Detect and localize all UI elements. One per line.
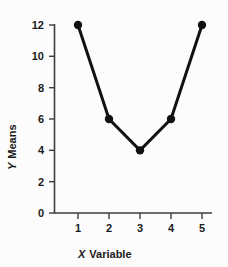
y-tick-label-10: 10 (32, 50, 44, 62)
data-line (78, 25, 202, 150)
x-tick-label-2: 2 (106, 222, 112, 234)
y-tick-label-2: 2 (38, 176, 44, 188)
data-markers (74, 21, 206, 155)
y-axis-title-text: Means (6, 124, 18, 158)
y-axis-title: YMeans (6, 124, 18, 170)
x-axis-title-text: Variable (89, 248, 131, 260)
data-point (105, 115, 113, 123)
chart-figure: 0 2 4 6 8 10 12 1 2 3 4 5 XVariable YMea… (0, 0, 228, 267)
y-tick-label-0: 0 (38, 207, 44, 219)
x-tick-label-1: 1 (75, 222, 81, 234)
x-axis-title-symbol: X (77, 248, 86, 260)
y-tick-label-12: 12 (32, 19, 44, 31)
data-point (167, 115, 175, 123)
data-point (136, 146, 144, 154)
line-chart: 0 2 4 6 8 10 12 1 2 3 4 5 XVariable YMea… (0, 0, 228, 267)
x-tick-label-5: 5 (199, 222, 205, 234)
y-axis-title-symbol: Y (6, 161, 18, 170)
x-axis-title: XVariable (77, 248, 132, 260)
x-tick-label-3: 3 (137, 222, 143, 234)
y-tick-label-6: 6 (38, 113, 44, 125)
y-tick-label-4: 4 (38, 144, 45, 156)
x-tick-label-4: 4 (168, 222, 175, 234)
y-tick-label-8: 8 (38, 82, 44, 94)
data-point (198, 21, 206, 29)
data-point (74, 21, 82, 29)
